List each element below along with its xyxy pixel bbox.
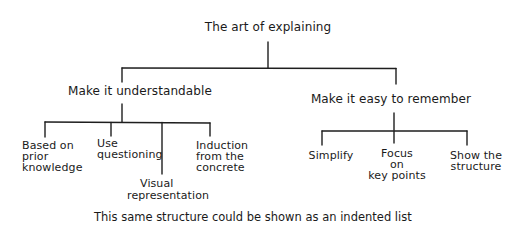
leaf-visual-representation: Visual representation: [127, 178, 209, 202]
leaf-based-on-prior-knowledge: Based on prior knowledge: [22, 140, 83, 173]
root-horizontal-line: [122, 68, 396, 69]
leaf-induction-from-the-concrete: Induction from the concrete: [196, 140, 248, 173]
branch-make-it-easy-to-remember: Make it easy to remember: [311, 94, 471, 105]
branch-make-it-understandable: Make it understandable: [68, 86, 212, 97]
diagram-caption: This same structure could be shown as an…: [94, 210, 412, 224]
connector-lines: [0, 0, 521, 235]
root-node: The art of explaining: [205, 22, 332, 33]
leaf-show-the-structure: Show the structure: [450, 150, 502, 172]
branch-1-horizontal-line: [45, 122, 210, 123]
leaf-use-questioning: Use questioning: [97, 138, 163, 160]
leaf-focus-on-key-points: Focus on key points: [368, 148, 426, 181]
leaf-simplify: Simplify: [309, 150, 354, 161]
tree-diagram: The art of explaining Make it understand…: [0, 0, 521, 235]
